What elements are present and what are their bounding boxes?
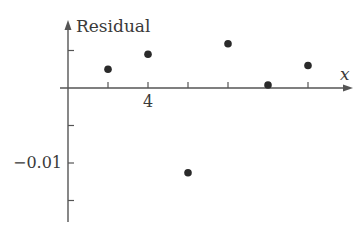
data-point [104,65,112,73]
y-axis-label: Residual [76,16,150,36]
y-axis-arrow-icon [65,20,72,30]
y-tick-label: −0.01 [13,153,62,172]
data-points [104,40,312,177]
x-axis-arrow-icon [343,85,353,92]
data-point [264,81,272,89]
ticks [68,51,308,201]
residual-plot: Residual x 4−0.01 [0,0,361,238]
data-point [224,40,232,48]
axes [60,20,353,222]
x-tick-label: 4 [143,92,153,111]
x-axis-label: x [340,64,350,84]
tick-labels: 4−0.01 [13,92,153,172]
data-point [304,62,312,70]
data-point [184,169,192,177]
data-point [144,50,152,58]
